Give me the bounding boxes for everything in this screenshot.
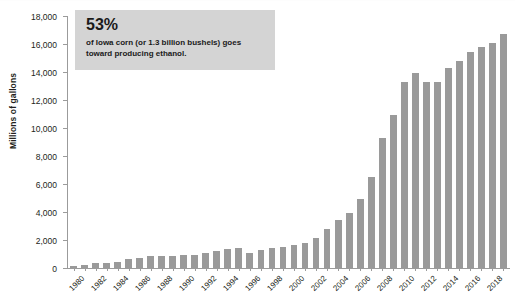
x-axis-tick — [415, 268, 416, 271]
x-axis-tick — [173, 268, 174, 271]
x-axis-tick — [195, 268, 196, 271]
bar-2014 — [445, 68, 452, 268]
bar-1990 — [180, 255, 187, 268]
bar-1997 — [258, 250, 265, 268]
x-axis-tick — [250, 268, 251, 271]
x-axis-tick — [74, 268, 75, 271]
x-axis-tick — [272, 268, 273, 271]
x-axis-tick — [294, 268, 295, 271]
y-axis-tick — [63, 100, 67, 101]
y-axis-tick — [63, 184, 67, 185]
bar-2002 — [313, 238, 320, 268]
x-axis-tick — [382, 268, 383, 271]
bar-2017 — [478, 47, 485, 268]
x-axis-tick — [305, 268, 306, 271]
x-axis-tick — [239, 268, 240, 271]
x-axis-tick — [448, 268, 449, 271]
x-axis-tick — [283, 268, 284, 271]
annotation-line-1: of Iowa corn (or 1.3 billion bushels) go… — [86, 37, 265, 49]
bar-2012 — [423, 82, 430, 268]
y-axis-tick — [63, 240, 67, 241]
x-axis-tick — [96, 268, 97, 271]
x-axis-tick — [85, 268, 86, 271]
annotation-statistic: 53% — [86, 17, 265, 34]
bar-2005 — [346, 213, 353, 268]
x-axis-tick — [492, 268, 493, 271]
y-axis-tick — [63, 268, 67, 269]
x-axis-tick — [459, 268, 460, 271]
ethanol-production-chart: Millions of gallons 02,0004,0006,0008,00… — [0, 0, 515, 304]
bar-2007 — [368, 177, 375, 268]
y-axis-tick-label: 16,000 — [13, 40, 57, 50]
y-axis-tick-label: 6,000 — [13, 180, 57, 190]
x-axis-tick — [503, 268, 504, 271]
bar-2013 — [434, 82, 441, 268]
bar-1995 — [235, 248, 242, 268]
x-axis-line — [67, 268, 510, 269]
bar-1999 — [280, 247, 287, 268]
x-axis-tick — [327, 268, 328, 271]
bar-1985 — [125, 259, 132, 268]
bar-2001 — [302, 243, 309, 268]
bar-1998 — [269, 248, 276, 268]
bar-1992 — [202, 253, 209, 268]
x-axis-tick — [470, 268, 471, 271]
y-axis-tick — [63, 44, 67, 45]
bar-2019 — [500, 34, 507, 269]
bar-2016 — [467, 52, 474, 268]
y-axis-tick — [63, 72, 67, 73]
top-edge-rule — [0, 0, 515, 1]
y-axis-tick-label: 12,000 — [13, 96, 57, 106]
bar-1986 — [136, 258, 143, 268]
y-axis-tick-label: 8,000 — [13, 152, 57, 162]
x-axis-tick — [151, 268, 152, 271]
x-axis-tick — [481, 268, 482, 271]
y-axis-tick-label: 14,000 — [13, 68, 57, 78]
x-axis-tick — [426, 268, 427, 271]
y-axis-tick — [63, 128, 67, 129]
x-axis-tick — [162, 268, 163, 271]
annotation-line-2: toward producing ethanol. — [86, 48, 265, 60]
x-axis-tick — [107, 268, 108, 271]
bar-2006 — [357, 199, 364, 268]
bar-1996 — [246, 253, 253, 268]
x-axis-tick — [217, 268, 218, 271]
y-axis-tick-label: 18,000 — [13, 12, 57, 22]
x-axis-tick — [393, 268, 394, 271]
y-axis-tick — [63, 16, 67, 17]
bar-2009 — [390, 115, 397, 268]
x-axis-tick — [437, 268, 438, 271]
x-axis-tick — [129, 268, 130, 271]
x-axis-tick — [184, 268, 185, 271]
bar-2004 — [335, 220, 342, 268]
x-axis-tick — [360, 268, 361, 271]
bar-2018 — [489, 43, 496, 268]
bar-2011 — [412, 73, 419, 268]
bar-2008 — [379, 138, 386, 268]
bar-2003 — [324, 229, 331, 268]
x-axis-tick — [316, 268, 317, 271]
bar-1988 — [158, 256, 165, 268]
bar-1987 — [147, 256, 154, 268]
x-axis-tick — [349, 268, 350, 271]
bar-1991 — [191, 255, 198, 268]
x-axis-tick — [371, 268, 372, 271]
bar-2015 — [456, 61, 463, 268]
x-axis-tick — [261, 268, 262, 271]
y-axis-tick-label: 0 — [13, 264, 57, 274]
bar-2010 — [401, 82, 408, 268]
bar-1994 — [224, 249, 231, 268]
y-axis-tick-label: 2,000 — [13, 236, 57, 246]
y-axis-tick — [63, 156, 67, 157]
x-axis-tick — [140, 268, 141, 271]
bar-1989 — [169, 256, 176, 268]
y-axis-tick-label: 4,000 — [13, 208, 57, 218]
bar-2000 — [291, 245, 298, 268]
y-axis-tick — [63, 212, 67, 213]
annotation-callout: 53% of Iowa corn (or 1.3 billion bushels… — [75, 10, 275, 70]
x-axis-tick — [404, 268, 405, 271]
x-axis-tick — [206, 268, 207, 271]
x-axis-tick — [228, 268, 229, 271]
y-axis-tick-label: 10,000 — [13, 124, 57, 134]
bar-1993 — [213, 251, 220, 268]
